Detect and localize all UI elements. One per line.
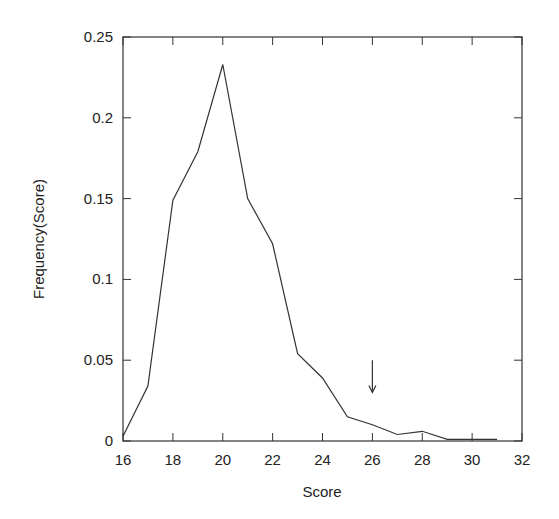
- annotations: [369, 360, 376, 392]
- x-tick-label: 32: [514, 451, 531, 468]
- y-axis-title: Frequency(Score): [30, 179, 47, 299]
- x-tick-label: 28: [414, 451, 431, 468]
- x-tick-label: 16: [115, 451, 132, 468]
- y-tick-label: 0: [105, 432, 113, 449]
- x-tick-label: 24: [314, 451, 331, 468]
- data-series: [123, 65, 497, 440]
- x-axis: 161820222426283032: [115, 37, 531, 468]
- x-axis-title: Score: [302, 483, 341, 500]
- y-tick-label: 0.25: [84, 28, 113, 45]
- y-tick-label: 0.05: [84, 351, 113, 368]
- frequency-chart: 161820222426283032 00.050.10.150.20.25 S…: [0, 0, 559, 519]
- y-tick-label: 0.15: [84, 190, 113, 207]
- series-line: [123, 65, 497, 440]
- x-tick-label: 30: [464, 451, 481, 468]
- x-tick-label: 22: [264, 451, 281, 468]
- y-axis: 00.050.10.150.20.25: [84, 28, 522, 449]
- plot-border: [123, 37, 522, 441]
- plot-frame: [123, 37, 522, 441]
- x-tick-label: 26: [364, 451, 381, 468]
- y-tick-label: 0.1: [92, 270, 113, 287]
- y-tick-label: 0.2: [92, 109, 113, 126]
- x-tick-label: 18: [165, 451, 182, 468]
- x-tick-label: 20: [214, 451, 231, 468]
